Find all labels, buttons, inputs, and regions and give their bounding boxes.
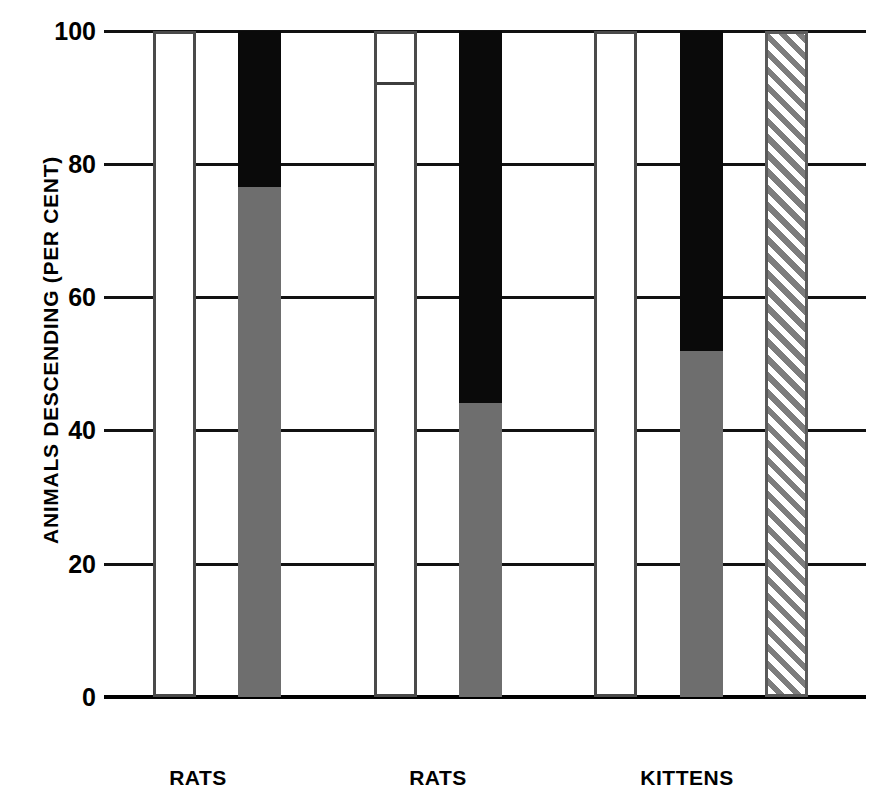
- segment-gray: [238, 187, 281, 697]
- group-label-kittens: KITTENS (BOTH CUES): [592, 712, 782, 791]
- bar-rats-pattern-outline: [374, 31, 417, 697]
- plot-area: [104, 0, 871, 791]
- y-tick-80: 80: [34, 152, 96, 177]
- bar-rats-motion-outline: [153, 31, 196, 697]
- bar-kittens-outline: [594, 31, 637, 697]
- bar-kittens-hatched: [765, 31, 808, 697]
- segment-gray: [680, 351, 723, 697]
- group-label-line1: KITTENS: [592, 765, 782, 791]
- y-tick-100: 100: [34, 19, 96, 44]
- y-axis-tick-labels: 100 80 60 40 20 0: [34, 0, 96, 791]
- group-label-line1: RATS: [108, 765, 288, 791]
- y-tick-0: 0: [34, 685, 96, 710]
- group-label-rats-motion: RATS (MOTION PARALLAX CUES): [108, 712, 288, 791]
- y-tick-20: 20: [34, 552, 96, 577]
- group-label-line1: RATS: [348, 765, 528, 791]
- segment-black: [459, 31, 502, 403]
- y-tick-40: 40: [34, 418, 96, 443]
- segment-black: [238, 31, 281, 187]
- segment-gray: [459, 403, 502, 697]
- bar-rats-motion-stacked: [238, 31, 281, 697]
- segment-black: [680, 31, 723, 351]
- bar-kittens-stacked: [680, 31, 723, 697]
- bar-internal-divider: [377, 82, 414, 85]
- group-label-rats-pattern: RATS (PATTERN DENSITY CUES): [348, 712, 528, 791]
- chart-figure: ANIMALS DESCENDING (PER CENT) 100 80 60 …: [0, 0, 871, 791]
- y-tick-60: 60: [34, 285, 96, 310]
- bar-rats-pattern-stacked: [459, 31, 502, 697]
